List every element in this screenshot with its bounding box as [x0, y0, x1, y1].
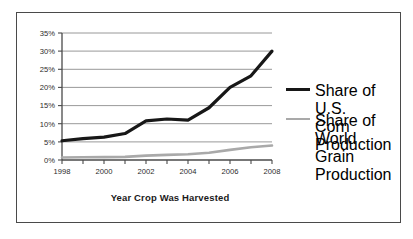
y-tick-label: 15% — [40, 101, 55, 110]
y-tick-label: 25% — [40, 65, 55, 74]
series-line-world-grain — [62, 145, 272, 157]
y-tick-label: 10% — [40, 120, 55, 129]
y-tick-label: 35% — [40, 29, 55, 38]
x-tick-label: 2006 — [222, 167, 239, 176]
x-tick-label: 2000 — [96, 167, 113, 176]
chart-figure: 35% 30% 25% 20% 15% 10% 5% 0% 1998 20 — [0, 0, 413, 239]
x-axis-title: Year Crop Was Harvested — [60, 192, 280, 203]
legend-label-line1: Share of World — [315, 112, 404, 148]
y-tick-label: 0% — [44, 156, 55, 165]
x-tick-labels: 1998 2000 2002 2004 2006 2008 — [54, 167, 281, 176]
x-tick-label: 2008 — [264, 167, 281, 176]
x-tick-label: 2004 — [180, 167, 197, 176]
x-tick-label: 2002 — [138, 167, 155, 176]
y-tick-label: 5% — [44, 138, 55, 147]
y-tick-labels: 35% 30% 25% 20% 15% 10% 5% 0% — [40, 29, 55, 165]
legend-swatch-world-grain — [286, 118, 310, 120]
chart-legend: Share of U.S. Corn Production Share of W… — [286, 84, 404, 144]
x-tick-label: 1998 — [54, 167, 71, 176]
y-tick-label: 20% — [40, 83, 55, 92]
legend-swatch-us-corn — [286, 88, 310, 91]
legend-label-line2: Grain Production — [315, 148, 404, 184]
y-tick-label: 30% — [40, 47, 55, 56]
legend-label-world-grain: Share of World Grain Production — [315, 112, 404, 184]
gridlines — [62, 33, 272, 142]
series-line-us-corn — [62, 51, 272, 141]
